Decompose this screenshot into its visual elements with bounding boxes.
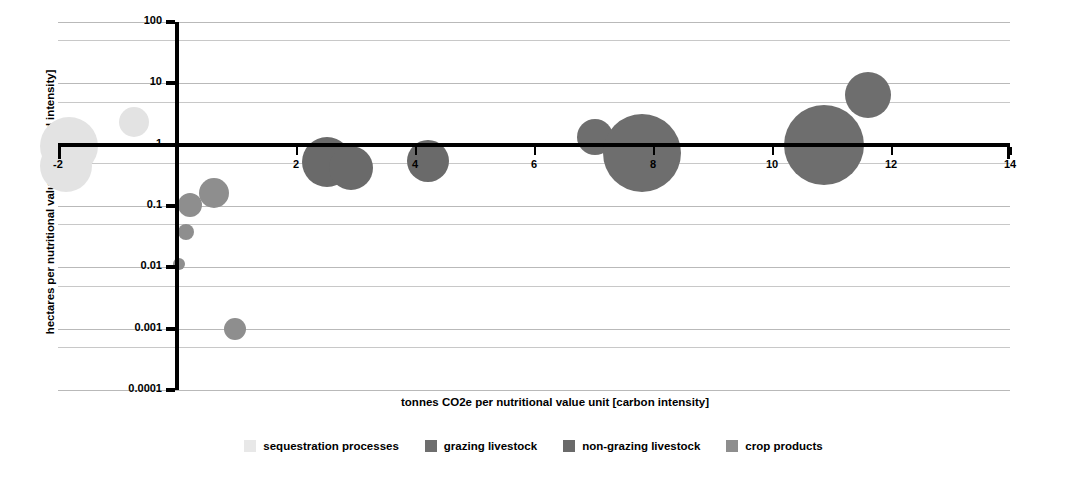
gridline-minor <box>58 347 1010 348</box>
y-tick-label-10: 10 <box>102 75 162 87</box>
x-tick-label-8: 8 <box>633 158 673 170</box>
y-axis-line <box>175 22 179 390</box>
gridline-major <box>58 390 1010 391</box>
y-tick-label-1: 1 <box>102 137 162 149</box>
y-tick-1 <box>166 143 175 147</box>
y-tick-label-0.01: 0.01 <box>102 259 162 271</box>
x-tick-label-10: 10 <box>752 158 792 170</box>
legend-label: sequestration processes <box>263 440 399 452</box>
y-tick-0.01 <box>166 265 175 269</box>
chart-legend: sequestration processesgrazing livestock… <box>0 440 1067 452</box>
x-tick-0 <box>177 147 179 155</box>
x-tick-8 <box>653 147 655 155</box>
y-tick-10 <box>166 81 175 85</box>
y-tick-0.1 <box>166 204 175 208</box>
gridline-major <box>58 267 1010 268</box>
x-tick-label-4: 4 <box>395 158 435 170</box>
legend-label: non-grazing livestock <box>582 440 700 452</box>
x-axis-title: tonnes CO2e per nutritional value unit [… <box>190 396 920 408</box>
gridline-minor <box>58 224 1010 225</box>
bubble-sequestration-processes-2 <box>119 107 149 137</box>
y-tick-100 <box>166 20 175 24</box>
bubble-grazing-livestock-1 <box>603 114 681 192</box>
legend-item-grazing-livestock[interactable]: grazing livestock <box>425 440 537 452</box>
x-tick-4 <box>415 147 417 155</box>
legend-label: crop products <box>745 440 822 452</box>
y-tick-0.001 <box>166 327 175 331</box>
gridline-major <box>58 329 1010 330</box>
legend-item-sequestration-processes[interactable]: sequestration processes <box>244 440 399 452</box>
x-tick-10 <box>772 147 774 155</box>
gridline-minor <box>58 286 1010 287</box>
x-tick-label-12: 12 <box>871 158 911 170</box>
x-tick-label-6: 6 <box>514 158 554 170</box>
x-tick-2 <box>296 147 298 155</box>
bubble-crop-products-2 <box>178 224 194 240</box>
legend-item-crop-products[interactable]: crop products <box>726 440 822 452</box>
bubble-non-grazing-livestock-1 <box>329 146 373 190</box>
y-tick-label-0.0001: 0.0001 <box>102 382 162 394</box>
y-tick-label-100: 100 <box>102 14 162 26</box>
y-tick-label-0.001: 0.001 <box>102 321 162 333</box>
plot-area: -224681012141001010.10.010.0010.0001 <box>58 22 1010 390</box>
y-tick-label-0.1: 0.1 <box>102 198 162 210</box>
x-tick--2 <box>58 147 60 155</box>
legend-item-non-grazing-livestock[interactable]: non-grazing livestock <box>563 440 700 452</box>
gridline-minor <box>58 40 1010 41</box>
x-tick-label-14: 14 <box>990 158 1030 170</box>
gridline-major <box>58 22 1010 23</box>
legend-swatch-icon <box>425 440 437 452</box>
bubble-chart: hectares per nutritional value unit [lan… <box>0 0 1067 486</box>
bubble-crop-products-1 <box>178 193 202 217</box>
bubble-crop-products-0 <box>199 178 229 208</box>
x-tick-12 <box>891 147 893 155</box>
x-tick-label--2: -2 <box>38 158 78 170</box>
y-axis-title: hectares per nutritional value unit [lan… <box>44 32 56 372</box>
bubble-crop-products-4 <box>224 318 246 340</box>
y-tick-0.0001 <box>166 388 175 392</box>
bubble-grazing-livestock-3 <box>845 72 891 118</box>
x-tick-14 <box>1010 147 1012 155</box>
x-tick-6 <box>534 147 536 155</box>
legend-swatch-icon <box>244 440 256 452</box>
x-tick-label-2: 2 <box>276 158 316 170</box>
legend-swatch-icon <box>726 440 738 452</box>
legend-label: grazing livestock <box>444 440 537 452</box>
legend-swatch-icon <box>563 440 575 452</box>
